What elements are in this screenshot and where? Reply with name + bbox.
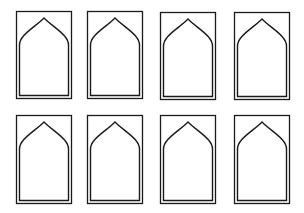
arch-frame-r1c3 (159, 11, 217, 101)
arch-frame-r2c3 (159, 114, 217, 205)
pointed-arch-icon (159, 114, 217, 205)
pointed-arch-icon (233, 11, 291, 101)
arch-frame-r1c1 (15, 10, 73, 100)
arch-frame-r1c4 (233, 11, 291, 101)
arch-frame-r2c1 (15, 114, 73, 205)
arch-frame-r1c2 (86, 10, 144, 100)
arch-frame-r2c4 (233, 114, 291, 205)
pointed-arch-icon (233, 114, 291, 205)
pointed-arch-icon (15, 114, 73, 205)
pointed-arch-icon (15, 10, 73, 100)
arch-frame-r2c2 (86, 114, 144, 205)
pointed-arch-icon (159, 11, 217, 101)
pointed-arch-icon (86, 10, 144, 100)
pointed-arch-icon (86, 114, 144, 205)
